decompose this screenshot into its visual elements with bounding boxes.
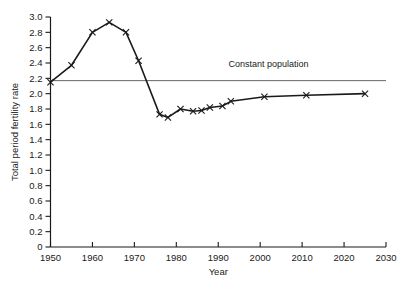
data-point-marker [123, 29, 129, 35]
x-tick-label: 1950 [40, 252, 61, 263]
y-tick-label: 1.6 [29, 119, 42, 130]
y-tick-label: 3.0 [29, 11, 42, 22]
x-tick-label: 1960 [82, 252, 103, 263]
y-tick-label: 1.8 [29, 103, 42, 114]
y-tick-label: 0.2 [29, 226, 42, 237]
y-tick-label: 0.4 [29, 211, 42, 222]
y-tick-label: 2.2 [29, 73, 42, 84]
y-tick-label: 2.0 [29, 88, 42, 99]
y-tick-label: 0.6 [29, 195, 42, 206]
fertility-rate-chart: 00.20.40.60.81.01.21.41.61.82.02.22.42.6… [0, 0, 407, 289]
x-tick-label: 1970 [124, 252, 145, 263]
constant-population-label: Constant population [229, 59, 309, 69]
y-tick-label: 2.4 [29, 57, 42, 68]
chart-canvas: 00.20.40.60.81.01.21.41.61.82.02.22.42.6… [0, 0, 407, 289]
y-axis-title: Total period fertility rate [9, 83, 20, 181]
y-tick-label: 2.8 [29, 27, 42, 38]
y-tick-label: 1.0 [29, 165, 42, 176]
y-tick-label: 0.8 [29, 180, 42, 191]
y-tick-label: 1.2 [29, 149, 42, 160]
x-tick-label: 2000 [250, 252, 271, 263]
x-tick-label: 2010 [292, 252, 313, 263]
x-tick-label: 1990 [208, 252, 229, 263]
y-tick-label: 1.4 [29, 134, 42, 145]
x-axis-title: Year [209, 266, 228, 277]
series-line [51, 22, 366, 117]
data-point-marker [68, 62, 74, 68]
y-tick-label: 0 [37, 241, 42, 252]
x-tick-label: 1980 [166, 252, 187, 263]
data-point-marker [106, 19, 112, 25]
data-point-marker [89, 29, 95, 35]
x-tick-label: 2030 [375, 252, 396, 263]
y-tick-label: 2.6 [29, 42, 42, 53]
x-tick-label: 2020 [333, 252, 354, 263]
